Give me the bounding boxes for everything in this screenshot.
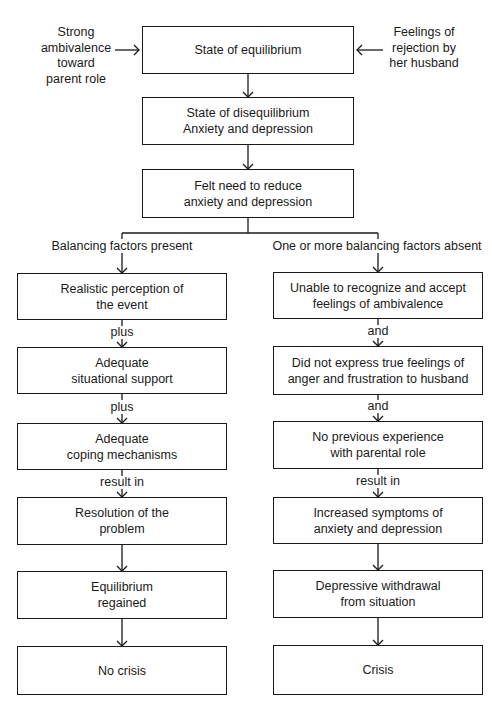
box-felt-need: Felt need to reduce anxiety and depressi… [142,169,354,218]
branch-label-absent: One or more balancing factors absent [270,238,484,254]
connector-label: result in [338,473,418,489]
box-text: problem [99,521,144,537]
box-unable-to-recognize: Unable to recognize and accept feelings … [273,272,483,319]
box-text: anxiety and depression [314,521,443,537]
box-text: No crisis [98,663,146,679]
box-text: Adequate [95,355,149,371]
connector-label: plus [92,399,152,415]
box-equilibrium-regained: Equilibrium regained [17,571,227,619]
box-equilibrium: State of equilibrium [142,26,354,74]
box-increased-symptoms: Increased symptoms of anxiety and depres… [273,497,483,544]
box-text: Equilibrium [91,579,153,595]
box-text: State of disequilibrium [187,105,310,121]
input-line: Feelings of [384,25,464,41]
connector-label: and [348,323,408,339]
box-text: Felt need to reduce [194,178,302,194]
box-text: Adequate [95,431,149,447]
box-text: State of equilibrium [194,42,301,58]
box-coping-mechanisms: Adequate coping mechanisms [17,423,227,470]
connector-label: result in [82,474,162,490]
box-text: Resolution of the [75,505,169,521]
box-text: Did not express true feelings of [292,355,464,371]
box-crisis: Crisis [273,645,483,695]
box-text: Realistic perception of [61,281,184,297]
input-line: toward [35,56,117,72]
box-text: Crisis [362,662,393,678]
input-line: Strong [35,25,117,41]
box-text: the event [96,297,147,313]
box-text: No previous experience [312,429,443,445]
box-text: feelings of ambivalence [313,296,444,312]
input-line: rejection by [384,41,464,57]
box-text: anger and frustration to husband [288,371,469,387]
box-disequilibrium: State of disequilibrium Anxiety and depr… [142,97,354,145]
box-resolution: Resolution of the problem [17,497,227,545]
box-no-crisis: No crisis [17,646,227,695]
input-line: her husband [384,56,464,72]
input-rejection: Feelings of rejection by her husband [384,25,464,72]
box-no-previous-experience: No previous experience with parental rol… [273,421,483,469]
input-line: ambivalence [35,41,117,57]
box-depressive-withdrawal: Depressive withdrawal from situation [273,570,483,618]
box-text: coping mechanisms [67,447,177,463]
input-line: parent role [35,72,117,88]
box-text: situational support [71,371,172,387]
box-text: Anxiety and depression [183,121,313,137]
box-did-not-express: Did not express true feelings of anger a… [273,346,483,395]
branch-label-present: Balancing factors present [40,238,204,254]
connector-label: plus [92,324,152,340]
box-text: Depressive withdrawal [315,578,440,594]
box-text: Increased symptoms of [313,505,442,521]
box-text: with parental role [330,445,425,461]
box-text: Unable to recognize and accept [290,280,466,296]
box-situational-support: Adequate situational support [17,347,227,394]
input-ambivalence: Strong ambivalence toward parent role [35,25,117,87]
connector-label: and [348,398,408,414]
box-text: anxiety and depression [184,194,313,210]
box-realistic-perception: Realistic perception of the event [17,273,227,320]
box-text: from situation [340,594,415,610]
box-text: regained [98,595,147,611]
